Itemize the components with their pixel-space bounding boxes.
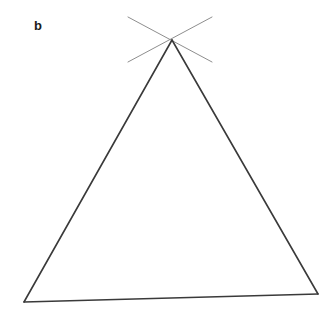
figure-panel-b: b <box>0 0 330 319</box>
triangle-right-side <box>172 40 318 294</box>
line-drawing-canvas <box>0 0 330 319</box>
panel-label-b: b <box>34 19 42 32</box>
triangle-base <box>24 294 318 302</box>
construction-lines-group <box>128 17 212 62</box>
triangle-outline-group <box>24 40 318 302</box>
triangle-left-side <box>24 40 172 302</box>
